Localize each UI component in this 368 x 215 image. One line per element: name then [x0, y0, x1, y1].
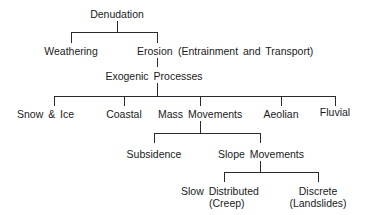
node-discrete: Discrete — [299, 185, 338, 197]
node-erosion: Erosion — [137, 45, 173, 57]
connector-snow-ice-drop — [54, 96, 55, 106]
connector-exogenic-down — [157, 83, 158, 96]
connector-coastal-drop — [124, 96, 125, 106]
connector-discrete-drop — [318, 172, 319, 182]
node-subsidence: Subsidence — [127, 148, 182, 160]
connector-aeolian-drop — [281, 96, 282, 106]
connector-denudation-down — [117, 21, 118, 32]
node-coastal: Coastal — [106, 108, 142, 120]
node-erosion-note: (Entrainment and Transport) — [178, 45, 313, 57]
node-exogenic-processes: Exogenic Processes — [105, 70, 202, 82]
connector-fluvial-drop — [335, 96, 336, 106]
node-slow-distributed: Slow Distributed — [181, 185, 259, 197]
connector-level3-bar — [54, 96, 336, 97]
node-mass-movements: Mass Movements — [158, 108, 242, 120]
connector-mass-movements-down — [200, 121, 201, 133]
denudation-tree-diagram: Denudation Weathering Erosion (Entrainme… — [0, 0, 368, 215]
connector-mass-movements-drop — [200, 96, 201, 106]
connector-slope-movements-down — [260, 161, 261, 172]
node-fluvial: Fluvial — [320, 106, 350, 118]
node-landslides: (Landslides) — [289, 197, 346, 209]
connector-level1-bar — [71, 32, 158, 33]
connector-weathering-drop — [71, 32, 72, 43]
node-denudation: Denudation — [90, 8, 144, 20]
connector-erosion-drop — [157, 32, 158, 43]
connector-erosion-exogenic — [157, 58, 158, 67]
connector-level4-bar — [154, 133, 261, 134]
connector-slow-distributed-drop — [224, 172, 225, 182]
node-snow-ice: Snow & Ice — [17, 108, 74, 120]
connector-subsidence-drop — [154, 133, 155, 143]
node-aeolian: Aeolian — [263, 108, 298, 120]
node-creep: (Creep) — [209, 197, 245, 209]
connector-slope-movements-drop — [260, 133, 261, 143]
connector-level5-bar — [224, 172, 319, 173]
node-weathering: Weathering — [44, 45, 98, 57]
node-slope-movements: Slope Movements — [218, 148, 304, 160]
